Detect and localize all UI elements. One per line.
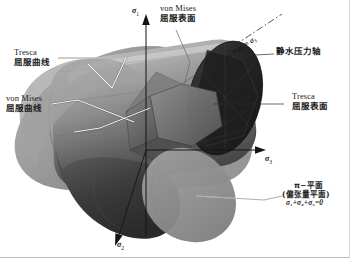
axis-label-sigma2-sub: 2: [121, 245, 124, 251]
stress-space-diagram: [0, 0, 350, 258]
label-pi-plane: π−平面 (偏张量平面) σ₁+σ₂+σ₃=0: [282, 182, 330, 207]
axis-label-sigma1-sub: 1: [136, 11, 139, 17]
axis-label-sigma2: σ2: [117, 240, 124, 251]
label-vonmises-surface-cn: 屈服表面: [160, 14, 196, 24]
axis-label-sigma1: σ1: [132, 6, 139, 17]
label-tresca-curve: Tresca 屈服曲线: [14, 48, 50, 67]
label-hydrostatic-axis-cn: 静水压力轴: [276, 47, 322, 57]
label-vonmises-curve: von Mises 屈服曲线: [6, 94, 42, 113]
figure-canvas: Tresca 屈服曲线 von Mises 屈服曲线 von Mises 屈服表…: [0, 0, 350, 258]
label-tresca-surface-cn: 屈服表面: [292, 102, 328, 112]
label-hydrostatic-axis: 静水压力轴: [276, 47, 322, 57]
axis-label-sigma3-sub: 3: [269, 159, 272, 165]
label-tresca-surface: Tresca 屈服表面: [292, 92, 328, 111]
label-vonmises-curve-cn: 屈服曲线: [6, 104, 42, 114]
label-vonmises-surface: von Mises 屈服表面: [160, 4, 196, 23]
label-tresca-curve-cn: 屈服曲线: [14, 58, 50, 68]
axis-label-sigma3: σ3: [265, 154, 272, 165]
label-pi-plane-equation: σ₁+σ₂+σ₃=0: [282, 199, 330, 207]
